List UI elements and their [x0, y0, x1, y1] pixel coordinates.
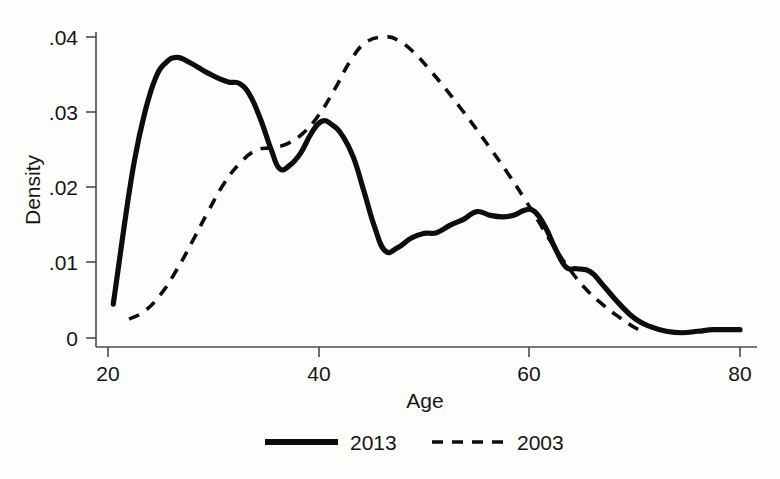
legend-label-2013: 2013	[350, 431, 397, 454]
chart-legend: 2013 2003	[265, 431, 564, 454]
x-axis-ticks	[108, 347, 740, 357]
y-axis-ticks	[86, 37, 96, 338]
chart-canvas: .04 .03 .02 .01 0 20 40 60 80 Age Densit…	[0, 0, 780, 479]
x-tick-label-3: 80	[728, 362, 751, 385]
density-plot-figure: .04 .03 .02 .01 0 20 40 60 80 Age Densit…	[0, 0, 780, 479]
y-tick-label-0: 0	[66, 327, 78, 350]
series-line-2013	[113, 57, 740, 332]
y-tick-label-1: .01	[49, 251, 78, 274]
x-tick-label-1: 40	[307, 362, 330, 385]
y-tick-label-4: .04	[49, 26, 79, 49]
y-axis-title: Density	[21, 154, 44, 225]
x-axis-title: Age	[406, 389, 443, 412]
x-tick-label-2: 60	[517, 362, 540, 385]
y-tick-label-2: .02	[49, 176, 78, 199]
legend-label-2003: 2003	[517, 431, 564, 454]
series-line-2003	[129, 37, 645, 332]
x-tick-label-0: 20	[96, 362, 119, 385]
y-tick-label-3: .03	[49, 101, 78, 124]
